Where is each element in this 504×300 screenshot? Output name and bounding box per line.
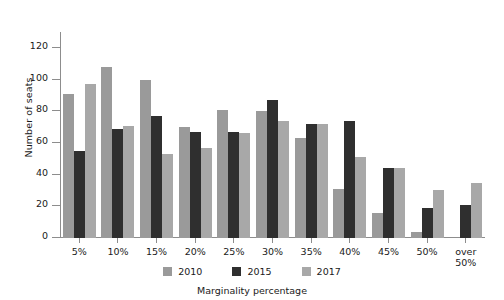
bar-2017-over-50-[interactable] [471,183,482,238]
bar-2017-40-[interactable] [355,157,366,238]
bar-2017-30-[interactable] [278,121,289,238]
bar-2017-35-[interactable] [317,124,328,238]
y-axis-tick: 20 [52,205,60,206]
bar-group: 20% [176,32,215,238]
bar-2010-45-[interactable] [372,213,383,238]
x-axis-tick-label: 45% [378,246,399,257]
x-axis-tick [311,238,312,243]
legend-label: 2017 [317,266,341,277]
legend-item-2015[interactable]: 2015 [232,266,271,277]
x-axis-tick [233,238,234,243]
x-axis-tick [465,238,466,243]
bar-2010-50-[interactable] [411,232,422,238]
bar-2010-15-[interactable] [140,80,151,238]
bar-group: 35% [292,32,331,238]
y-axis-tick-label: 40 [36,167,48,178]
y-axis-tick: 60 [52,142,60,143]
x-axis-tick [79,238,80,243]
x-axis-tick-label: 30% [262,246,283,257]
bar-2015-50-[interactable] [422,208,433,238]
y-axis-tick-label: 0 [42,230,48,241]
x-axis-tick-label: over 50% [455,246,476,268]
y-axis-title: Number of seats [23,43,34,193]
bar-group: 45% [369,32,408,238]
bar-2015-5-[interactable] [74,151,85,238]
plot-area: 020406080100120 5%10%15%20%25%30%35%40%4… [60,32,485,238]
legend-swatch-icon [302,267,311,276]
y-axis-tick: 100 [52,79,60,80]
y-axis-tick: 0 [52,237,60,238]
bar-2015-20-[interactable] [190,132,201,238]
bar-2015-over-50-[interactable] [460,205,471,238]
y-axis-tick-label: 120 [30,40,48,51]
x-axis-tick-label: 10% [107,246,128,257]
x-axis-tick [117,238,118,243]
bar-2017-15-[interactable] [162,154,173,238]
bar-2010-30-[interactable] [256,111,267,238]
x-axis-title: Marginality percentage [0,285,504,296]
bar-2015-35-[interactable] [306,124,317,238]
bar-group: 30% [253,32,292,238]
bar-2015-45-[interactable] [383,168,394,238]
y-axis-tick: 40 [52,174,60,175]
bar-group: 15% [137,32,176,238]
bar-2010-40-[interactable] [333,189,344,238]
y-axis-tick-label: 60 [36,135,48,146]
x-axis-tick-label: 25% [223,246,244,257]
x-axis-tick-label: 40% [339,246,360,257]
x-axis-tick-label: 15% [146,246,167,257]
x-axis-tick-label: 50% [417,246,438,257]
x-axis-tick [349,238,350,243]
x-axis-tick-label: 20% [185,246,206,257]
bar-group: 10% [99,32,138,238]
x-axis-tick [388,238,389,243]
bar-2010-5-[interactable] [63,94,74,238]
legend-swatch-icon [232,267,241,276]
bar-group: 40% [330,32,369,238]
x-axis-tick-label: 35% [301,246,322,257]
bar-2015-10-[interactable] [112,129,123,238]
y-axis-tick: 120 [52,47,60,48]
bar-2017-50-[interactable] [433,190,444,238]
legend-item-2017[interactable]: 2017 [302,266,341,277]
legend-label: 2015 [247,266,271,277]
chart-legend: 201020152017 [0,266,504,277]
x-axis-tick-label: 5% [72,246,87,257]
x-axis-tick [427,238,428,243]
bar-2010-10-[interactable] [101,67,112,238]
bar-2017-20-[interactable] [201,148,212,238]
y-axis-tick: 80 [52,110,60,111]
legend-swatch-icon [163,267,172,276]
x-axis-tick [156,238,157,243]
y-axis-tick-label: 80 [36,103,48,114]
bar-group: 25% [215,32,254,238]
x-axis-tick [195,238,196,243]
y-axis-tick-label: 100 [30,72,48,83]
bar-2015-30-[interactable] [267,100,278,238]
bar-group: 50% [408,32,447,238]
legend-item-2010[interactable]: 2010 [163,266,202,277]
bar-2015-15-[interactable] [151,116,162,238]
bar-2015-25-[interactable] [228,132,239,238]
bar-groups: 5%10%15%20%25%30%35%40%45%50%over 50% [60,32,485,238]
bar-2015-40-[interactable] [344,121,355,238]
bar-2017-45-[interactable] [394,168,405,238]
x-axis-tick [272,238,273,243]
bar-2017-10-[interactable] [123,126,134,239]
y-axis-tick-label: 20 [36,198,48,209]
bar-chart: Number of seats 020406080100120 5%10%15%… [0,0,504,300]
bar-2017-25-[interactable] [239,133,250,238]
bar-group: 5% [60,32,99,238]
bar-2010-20-[interactable] [179,127,190,238]
bar-2017-5-[interactable] [85,84,96,238]
legend-label: 2010 [178,266,202,277]
bar-2010-25-[interactable] [217,110,228,238]
bar-2010-35-[interactable] [295,138,306,238]
bar-group: over 50% [446,32,485,238]
